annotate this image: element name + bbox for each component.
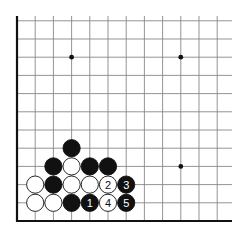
black-stone-3: 3 [118,176,135,193]
move-number: 1 [87,197,93,209]
white-stone [63,158,80,175]
white-stone [45,194,62,211]
move-number: 4 [105,197,111,209]
black-stone [45,176,62,193]
black-stone [81,158,98,175]
move-number: 5 [123,197,129,209]
white-stone [81,176,98,193]
move-number: 2 [105,179,111,191]
black-stone [63,140,80,157]
white-stone [27,194,44,211]
black-stone [45,158,62,175]
black-stone [63,194,80,211]
white-stone-2: 2 [99,176,116,193]
white-stone-4: 4 [99,194,116,211]
black-stone [99,158,116,175]
black-stone-5: 5 [118,194,135,211]
white-stone [63,176,80,193]
star-point-icon [178,55,183,60]
black-stone-1: 1 [81,194,98,211]
star-point-icon [178,164,183,169]
white-stone [27,176,44,193]
star-point-icon [69,55,74,60]
go-board: 23145 [0,0,248,235]
move-number: 3 [123,179,129,191]
stones: 23145 [27,140,135,212]
